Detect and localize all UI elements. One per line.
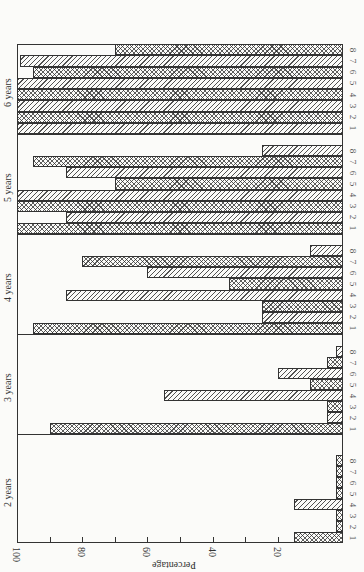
group-separator: [17, 334, 343, 335]
bar-index-label: 4: [348, 391, 358, 401]
axis-tick: [278, 537, 279, 543]
axis-tick: [180, 537, 181, 543]
axis-tick-label: 80: [76, 547, 87, 557]
bar-6-years-2: [17, 112, 343, 123]
axis-tick: [50, 537, 51, 543]
bar-4-years-1: [33, 323, 343, 334]
bar-4-years-8: [310, 245, 343, 256]
bar-index-label: 8: [348, 246, 358, 256]
bar-4-years-2: [262, 312, 344, 323]
group-label: 4 years: [2, 273, 13, 302]
axis-tick: [245, 537, 246, 543]
axis-tick-label: 100: [11, 547, 22, 562]
bar-3-years-7: [327, 357, 343, 368]
bar-5-years-5: [115, 178, 343, 189]
bar-6-years-5: [17, 78, 343, 89]
bar-6-years-6: [33, 67, 343, 78]
bar-5-years-1: [17, 223, 343, 234]
bar-4-years-7: [82, 256, 343, 267]
bar-4-years-3: [262, 301, 344, 312]
axis-tick-label: 60: [141, 547, 152, 557]
bar-index-label: 8: [348, 456, 358, 466]
bar-index-label: 5: [348, 78, 358, 88]
bar-index-label: 2: [348, 112, 358, 122]
bar-2-years-7: [336, 466, 343, 477]
bar-5-years-8: [262, 145, 344, 156]
bar-index-label: 4: [348, 90, 358, 100]
bar-index-label: 4: [348, 500, 358, 510]
bar-index-label: 2: [348, 413, 358, 423]
bar-3-years-2: [327, 412, 343, 423]
bar-2-years-5: [336, 488, 343, 499]
bar-5-years-2: [66, 212, 343, 223]
bar-4-years-4: [66, 290, 343, 301]
bar-3-years-4: [164, 390, 343, 401]
bar-index-label: 5: [348, 489, 358, 499]
group-label: 3 years: [2, 373, 13, 402]
bar-index-label: 3: [348, 511, 358, 521]
bar-6-years-7: [20, 55, 343, 66]
bar-2-years-3: [336, 510, 343, 521]
bar-index-label: 7: [348, 358, 358, 368]
bar-index-label: 3: [348, 101, 358, 111]
bar-3-years-8: [336, 346, 343, 357]
bar-index-label: 1: [348, 533, 358, 543]
bar-index-label: 3: [348, 402, 358, 412]
bar-index-label: 8: [348, 347, 358, 357]
bar-4-years-5: [229, 278, 343, 289]
bar-index-label: 5: [348, 380, 358, 390]
bar-index-label: 4: [348, 190, 358, 200]
axis-title: Percentage: [152, 560, 196, 571]
group-label: 5 years: [2, 173, 13, 202]
bar-2-years-1: [294, 532, 343, 543]
bar-6-years-3: [17, 100, 343, 111]
bar-index-label: 1: [348, 223, 358, 233]
bar-index-label: 8: [348, 146, 358, 156]
bar-index-label: 3: [348, 201, 358, 211]
bar-index-label: 4: [348, 290, 358, 300]
bar-2-years-4: [294, 499, 343, 510]
bar-index-label: 5: [348, 179, 358, 189]
bar-6-years-8: [115, 44, 343, 55]
bar-index-label: 1: [348, 323, 358, 333]
bar-index-label: 7: [348, 467, 358, 477]
group-separator: [17, 434, 343, 435]
bar-index-label: 6: [348, 478, 358, 488]
axis-tick: [115, 537, 116, 543]
bar-3-years-3: [327, 401, 343, 412]
axis-tick-label: 20: [272, 547, 283, 557]
group-separator: [17, 234, 343, 235]
axis-tick: [82, 537, 83, 543]
bar-index-label: 7: [348, 157, 358, 167]
axis-tick: [17, 537, 18, 543]
group-label: 6 years: [2, 78, 13, 107]
bar-index-label: 2: [348, 522, 358, 532]
grouped-bar-chart: 123456782 years123456783 years123456784 …: [0, 0, 364, 572]
bar-3-years-5: [310, 379, 343, 390]
bar-5-years-6: [66, 167, 343, 178]
bar-3-years-6: [278, 368, 343, 379]
bar-index-label: 8: [348, 45, 358, 55]
bar-index-label: 2: [348, 312, 358, 322]
bar-index-label: 1: [348, 424, 358, 434]
bar-index-label: 3: [348, 301, 358, 311]
bar-4-years-6: [147, 267, 343, 278]
bar-index-label: 6: [348, 67, 358, 77]
bar-5-years-3: [17, 201, 343, 212]
bar-2-years-6: [336, 477, 343, 488]
bar-3-years-1: [50, 423, 343, 434]
bar-index-label: 5: [348, 279, 358, 289]
group-separator: [17, 134, 343, 135]
bar-5-years-7: [33, 156, 343, 167]
bar-2-years-8: [336, 455, 343, 466]
bar-index-label: 6: [348, 268, 358, 278]
bar-index-label: 7: [348, 56, 358, 66]
bar-5-years-4: [17, 190, 343, 201]
bar-index-label: 6: [348, 369, 358, 379]
axis-tick: [213, 537, 214, 543]
axis-tick-label: 40: [207, 547, 218, 557]
bar-index-label: 7: [348, 257, 358, 267]
bar-index-label: 1: [348, 123, 358, 133]
bar-2-years-2: [336, 521, 343, 532]
group-label: 2 years: [2, 478, 13, 507]
